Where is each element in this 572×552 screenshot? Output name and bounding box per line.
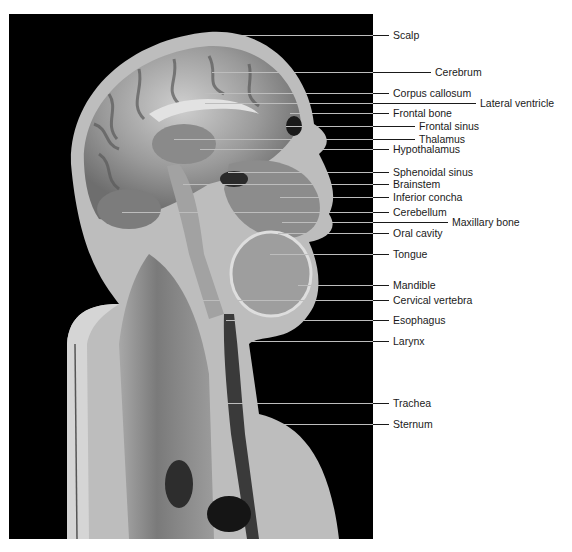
leader-line-scalp (214, 35, 389, 36)
leader-line-frontal-sinus (286, 126, 415, 127)
label-maxillary-bone: Maxillary bone (452, 216, 520, 228)
label-scalp: Scalp (393, 29, 419, 41)
label-corpus-callosum: Corpus callosum (393, 87, 471, 99)
leader-line-cerebrum (212, 72, 431, 73)
leader-line-cervical-vertebra (200, 300, 389, 301)
leader-line-trachea (228, 403, 389, 404)
label-sphenoidal-sinus: Sphenoidal sinus (393, 166, 473, 178)
label-brainstem: Brainstem (393, 178, 440, 190)
label-esophagus: Esophagus (393, 314, 446, 326)
leader-line-corpus-callosum (205, 93, 389, 94)
leader-line-inferior-concha (280, 197, 389, 198)
label-larynx: Larynx (393, 335, 425, 347)
label-cervical-vertebra: Cervical vertebra (393, 294, 472, 306)
leader-line-mandible (298, 285, 389, 286)
label-oral-cavity: Oral cavity (393, 227, 443, 239)
leader-line-sternum (278, 424, 389, 425)
label-trachea: Trachea (393, 397, 431, 409)
leader-line-tongue (270, 254, 389, 255)
leader-line-frontal-bone (290, 113, 389, 114)
label-tongue: Tongue (393, 248, 427, 260)
label-frontal-sinus: Frontal sinus (419, 120, 479, 132)
label-sternum: Sternum (393, 418, 433, 430)
leader-line-oral-cavity (278, 233, 389, 234)
leader-line-larynx (252, 341, 389, 342)
leader-line-maxillary-bone (282, 222, 448, 223)
label-frontal-bone: Frontal bone (393, 107, 452, 119)
leader-line-cerebellum (122, 212, 389, 213)
leader-line-hypothalamus (200, 149, 389, 150)
label-hypothalamus: Hypothalamus (393, 143, 460, 155)
leader-line-lateral-ventricle (205, 103, 476, 104)
label-cerebellum: Cerebellum (393, 206, 447, 218)
label-cerebrum: Cerebrum (435, 66, 482, 78)
label-mandible: Mandible (393, 279, 436, 291)
leader-line-sphenoidal-sinus (228, 172, 389, 173)
label-inferior-concha: Inferior concha (393, 191, 462, 203)
label-lateral-ventricle: Lateral ventricle (480, 97, 554, 109)
leader-line-brainstem (183, 184, 389, 185)
leader-line-thalamus (174, 139, 415, 140)
leader-line-esophagus (226, 320, 389, 321)
